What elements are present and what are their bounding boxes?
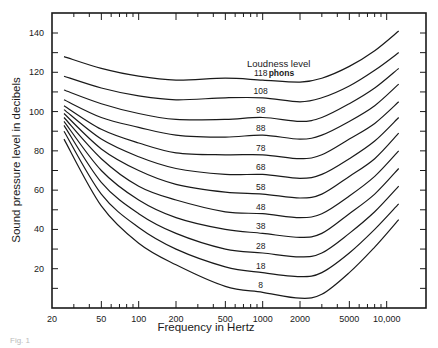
x-tick-label: 2000 <box>290 314 310 324</box>
curve-label: 18 <box>256 261 266 271</box>
loudness-curve <box>64 125 399 257</box>
loudness-curve <box>64 68 399 121</box>
x-tick-label: 10,000 <box>373 314 401 324</box>
x-tick-label: 1000 <box>253 314 273 324</box>
curve-label: 108 <box>254 86 268 96</box>
loudness-curve <box>64 110 399 179</box>
y-tick-label: 60 <box>34 185 44 195</box>
y-tick-label: 80 <box>34 146 44 156</box>
curve-label: 88 <box>256 123 266 133</box>
x-tick-label: 50 <box>96 314 106 324</box>
curve-label: 68 <box>256 162 266 172</box>
curve-label: 98 <box>256 105 266 115</box>
y-tick-label: 140 <box>29 28 44 38</box>
equal-loudness-chart: 205010020050010002000500010,000 20406080… <box>0 0 438 348</box>
curve-label: 118 <box>254 68 268 78</box>
x-axis-title: Frequency in Hertz <box>157 321 254 333</box>
y-tick-label: 120 <box>29 67 44 77</box>
loudness-curve <box>64 102 399 159</box>
loudness-curve <box>64 121 399 237</box>
loudness-curve <box>64 139 399 298</box>
curve-label: 28 <box>256 241 266 251</box>
legend-title: Loudness level <box>247 58 310 69</box>
loudness-curve <box>64 118 399 218</box>
loudness-curve <box>64 114 399 199</box>
x-tick-label: 100 <box>131 314 146 324</box>
plot-border <box>52 13 426 308</box>
y-axis-title: Sound pressure level in decibels <box>10 77 22 243</box>
curve-label: 8 <box>258 280 263 290</box>
curve-label: 58 <box>256 182 266 192</box>
curve-labels: 118phons1089888786858483828188 <box>254 68 295 290</box>
y-tick-label: 40 <box>34 224 44 234</box>
y-tick-label: 20 <box>34 264 44 274</box>
y-tick-label: 100 <box>29 107 44 117</box>
curve-label: 48 <box>256 202 266 212</box>
loudness-curve <box>64 53 399 102</box>
curve-label: 78 <box>256 143 266 153</box>
loudness-curves <box>64 31 399 298</box>
loudness-curve <box>64 31 399 82</box>
x-tick-label: 5000 <box>339 314 359 324</box>
plot-frame <box>52 13 426 308</box>
figure-caption: Fig. 1 <box>10 336 30 345</box>
x-tick-label: 20 <box>47 314 57 324</box>
curve-label: 38 <box>256 221 266 231</box>
phons-unit-label: phons <box>269 68 295 78</box>
loudness-curve <box>64 84 399 139</box>
loudness-curve <box>64 131 399 276</box>
